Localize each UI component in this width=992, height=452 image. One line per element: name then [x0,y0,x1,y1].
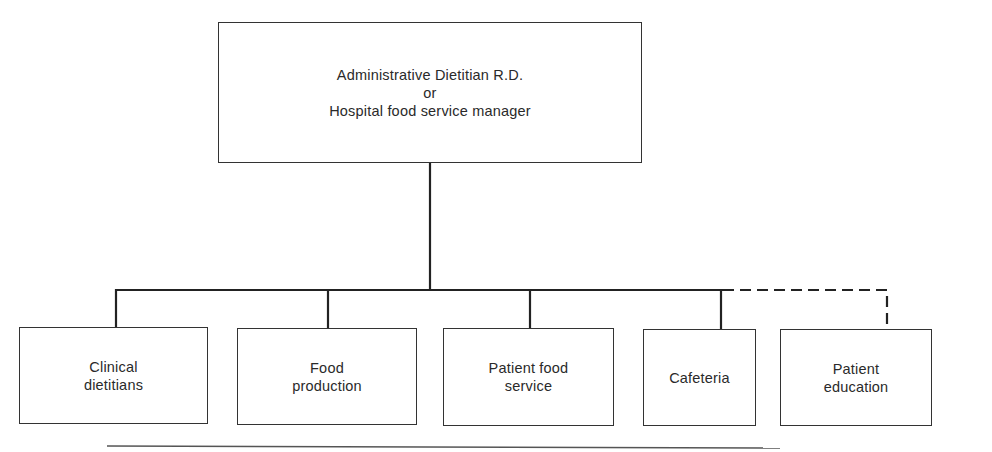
child-label: Food production [292,359,362,395]
child-label: Cafeteria [669,369,730,387]
bottom-rule [107,446,780,448]
child-box-food-production: Food production [237,328,417,425]
child-label: Patient education [824,360,889,396]
child-label: Clinical dietitians [84,358,143,394]
child-box-cafeteria: Cafeteria [643,329,756,426]
child-label: Patient food service [489,359,569,395]
child-box-patient-education: Patient education [780,329,932,426]
child-box-clinical-dietitians: Clinical dietitians [19,327,208,424]
root-box-administrative-dietitian: Administrative Dietitian R.D. or Hospita… [218,22,642,163]
root-label: Administrative Dietitian R.D. or Hospita… [329,66,531,120]
child-box-patient-food-service: Patient food service [443,328,614,426]
branch-patient-education-dashed [723,290,887,329]
